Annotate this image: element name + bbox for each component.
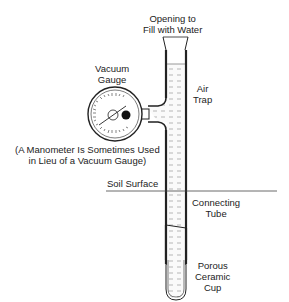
air-trap-label: Air Trap xyxy=(193,83,212,105)
porous-ceramic-cup xyxy=(166,225,186,300)
connecting-tube-label: Connecting Tube xyxy=(192,197,240,219)
porous-cup-label-line3: Cup xyxy=(195,282,230,293)
manometer-note: (A Manometer Is Sometimes Used in Lieu o… xyxy=(15,144,160,166)
soil-surface-label: Soil Surface xyxy=(107,178,158,189)
air-trap-label-line2: Trap xyxy=(193,94,212,105)
connecting-tube-label-line1: Connecting xyxy=(192,197,240,208)
porous-cup-label-line1: Porous xyxy=(195,260,230,271)
connecting-tube-label-line2: Tube xyxy=(192,208,240,219)
opening-label: Opening to Fill with Water xyxy=(143,13,202,35)
vacuum-gauge xyxy=(88,87,142,141)
vacuum-gauge-label-line1: Vacuum xyxy=(95,63,129,74)
opening-label-line1: Opening to xyxy=(143,13,202,24)
filling-opening xyxy=(163,37,188,50)
porous-cup-label: Porous Ceramic Cup xyxy=(195,260,230,293)
porous-cup-label-line2: Ceramic xyxy=(195,271,230,282)
vacuum-gauge-label: Vacuum Gauge xyxy=(95,63,129,85)
air-trap-label-line1: Air xyxy=(193,83,212,94)
vacuum-gauge-label-line2: Gauge xyxy=(95,74,129,85)
manometer-note-line2: in Lieu of a Vacuum Gauge) xyxy=(15,155,160,166)
manometer-note-line1: (A Manometer Is Sometimes Used xyxy=(15,144,160,155)
opening-label-line2: Fill with Water xyxy=(143,24,202,35)
